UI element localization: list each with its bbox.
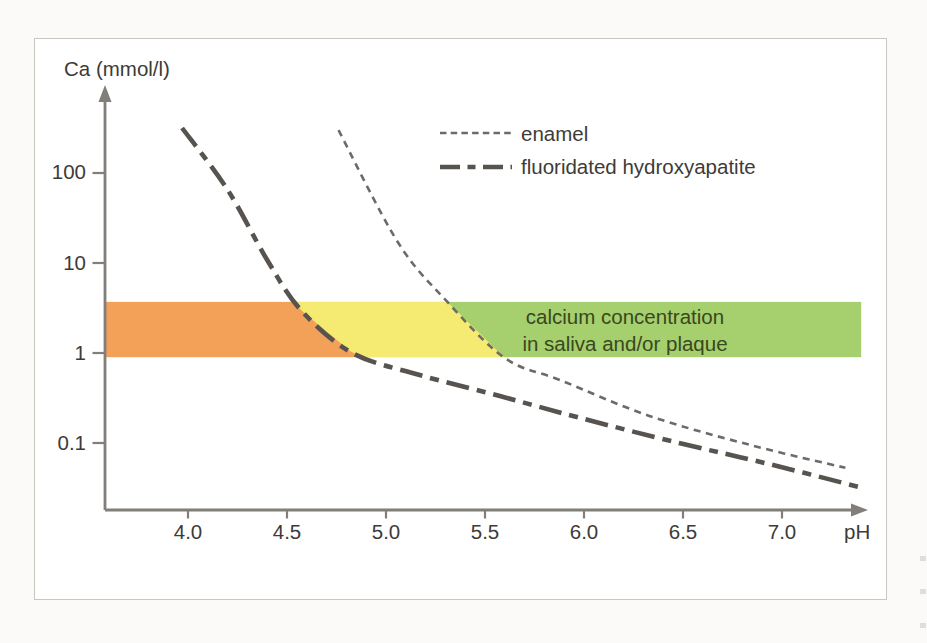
legend-line-samples — [440, 133, 512, 167]
y-tick-label-0p1: 0.1 — [26, 432, 86, 454]
band-annotation-line2: in saliva and/or plaque — [460, 330, 790, 357]
y-tick-label-1: 1 — [26, 342, 86, 364]
axes — [99, 85, 869, 517]
y-tick-label-10: 10 — [26, 252, 86, 274]
band-annotation: calcium concentration in saliva and/or p… — [460, 303, 790, 357]
y-axis-arrow-icon — [99, 85, 112, 102]
x-tick-label-5p5: 5.5 — [445, 521, 525, 543]
page-background: Ca (mmol/l) 100 10 1 0.1 4.0 4.5 5.0 5.5… — [0, 0, 927, 643]
legend-label-enamel: enamel — [521, 123, 588, 145]
page-edge-marks — [920, 556, 926, 628]
y-tick-label-100: 100 — [26, 161, 86, 183]
x-tick-label-4p5: 4.5 — [247, 521, 327, 543]
x-axis-title: pH — [844, 521, 870, 543]
legend-label-fluoridated-hydroxyapatite: fluoridated hydroxyapatite — [521, 156, 756, 178]
x-tick-label-6p0: 6.0 — [544, 521, 624, 543]
y-axis-title: Ca (mmol/l) — [64, 58, 170, 80]
x-tick-label-5p0: 5.0 — [346, 521, 426, 543]
x-tick-label-4p0: 4.0 — [148, 521, 228, 543]
band-annotation-line1: calcium concentration — [460, 303, 790, 330]
x-tick-label-7p0: 7.0 — [742, 521, 822, 543]
x-axis-arrow-icon — [851, 504, 868, 517]
x-tick-label-6p5: 6.5 — [643, 521, 723, 543]
